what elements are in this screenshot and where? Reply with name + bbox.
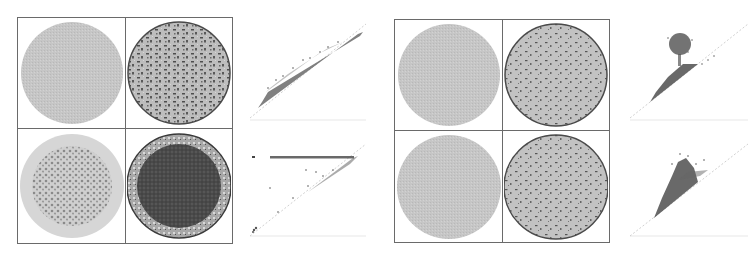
grid-divider-horizontal — [395, 130, 609, 131]
grid-divider-horizontal — [18, 128, 232, 129]
grid-divider-vertical — [502, 20, 503, 242]
scatter-canvas — [628, 22, 750, 122]
left-top-scatter-plot: (illegible) — [248, 22, 368, 122]
plot-title: (illegible) — [628, 14, 750, 19]
right-snapshot-bottom-left — [397, 133, 501, 241]
plot-title: (illegible) — [248, 134, 368, 139]
plot-title: (illegible) — [248, 14, 368, 19]
left-snapshot-bottom-right — [127, 131, 231, 241]
right-top-scatter-plot: (illegible) — [628, 22, 750, 122]
right-bottom-scatter-plot: (illegible) — [628, 142, 750, 238]
scatter-canvas — [248, 142, 368, 238]
left-bottom-scatter-plot: (illegible) — [248, 142, 368, 238]
grid-divider-vertical — [125, 18, 126, 243]
right-snapshot-top-left — [397, 22, 501, 128]
plot-title: (illegible) — [628, 134, 750, 139]
right-snapshot-top-right — [504, 22, 608, 128]
left-snapshot-bottom-left — [20, 131, 124, 241]
right-snapshot-grid — [394, 19, 610, 243]
left-snapshot-top-right — [127, 20, 231, 126]
scatter-canvas — [248, 22, 368, 122]
right-snapshot-bottom-right — [504, 133, 608, 241]
left-snapshot-top-left — [20, 20, 124, 126]
scatter-canvas — [628, 142, 750, 238]
left-snapshot-grid — [17, 17, 233, 244]
